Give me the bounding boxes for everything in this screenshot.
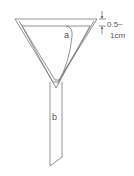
label-filter-paper: a (64, 31, 69, 40)
funnel-stem (50, 82, 62, 166)
dimension-label-line2: 1cm (110, 32, 125, 40)
filter-paper (22, 26, 90, 88)
arrowhead-down-icon (101, 16, 104, 19)
dimension-label-line1: 0.5~ (107, 21, 123, 29)
funnel-outer-cone (15, 19, 97, 82)
arrowhead-up-icon (101, 26, 104, 29)
funnel-inner-wall (19, 21, 94, 80)
label-stem: b (52, 113, 57, 122)
